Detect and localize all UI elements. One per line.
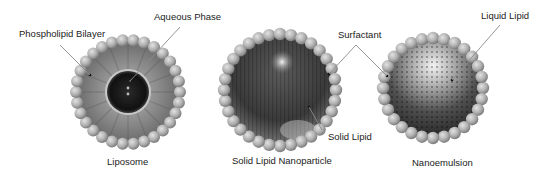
- leader-surfactant: [329, 45, 387, 76]
- caption-liposome: Liposome: [107, 157, 148, 167]
- label-liquid-lipid: Liquid Lipid: [481, 11, 529, 21]
- diagram-stage: Phospholipid Bilayer Aqueous Phase Surfa…: [0, 0, 544, 173]
- sln-particle: [218, 28, 342, 152]
- label-aqueous-phase: Aqueous Phase: [154, 12, 221, 22]
- diagram-graphics: [0, 0, 544, 173]
- caption-nanoemulsion: Nanoemulsion: [412, 158, 473, 168]
- liposome-particle: [70, 34, 186, 149]
- nanoemulsion-particle: [377, 32, 489, 144]
- label-solid-lipid: Solid Lipid: [328, 132, 372, 142]
- label-surfactant: Surfactant: [338, 30, 381, 40]
- caption-sln: Solid Lipid Nanoparticle: [232, 156, 332, 166]
- label-phospholipid-bilayer: Phospholipid Bilayer: [19, 29, 105, 39]
